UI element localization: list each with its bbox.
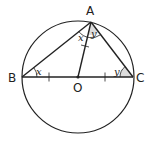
angle-label-bao: x — [78, 32, 84, 43]
label-b: B — [8, 71, 16, 85]
angle-label-c: y — [113, 66, 120, 77]
label-o: O — [73, 81, 82, 95]
angle-label-oac: y — [90, 28, 97, 39]
circle-diagram: A B C O x x y y — [0, 0, 148, 141]
label-a: A — [86, 4, 95, 18]
label-c: C — [136, 71, 144, 85]
angle-label-b: x — [36, 66, 42, 77]
center-point — [76, 75, 79, 78]
